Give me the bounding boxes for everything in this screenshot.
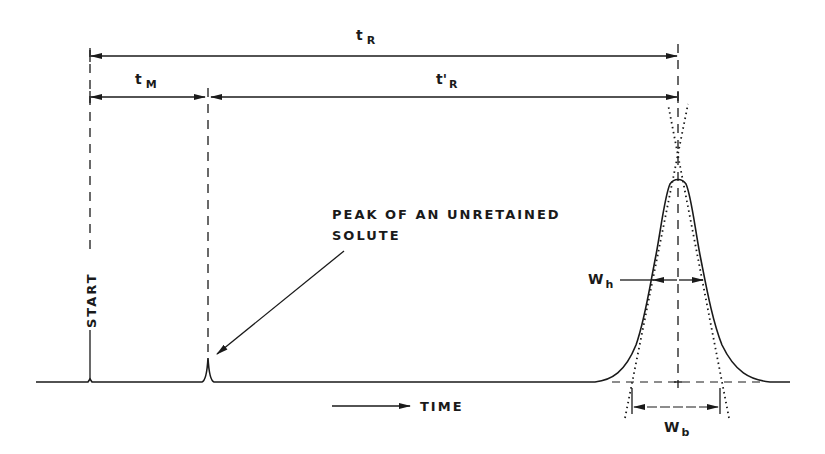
svg-text:tR: tR (356, 27, 376, 47)
w-h-dimension: Wh (588, 271, 703, 291)
unretained-label-line1: PEAK OF AN UNRETAINED (332, 207, 561, 222)
w-b-dimension: Wb (632, 388, 720, 439)
svg-text:t'R: t'R (436, 71, 458, 91)
unretained-annotation: PEAK OF AN UNRETAINED SOLUTE (217, 207, 561, 354)
svg-text:Wh: Wh (588, 271, 613, 291)
start-marker: START (84, 48, 99, 380)
time-axis-label: TIME (332, 399, 464, 414)
t-prime-r-dimension: t'R (211, 71, 678, 103)
unretained-label-line2: SOLUTE (332, 228, 401, 243)
svg-text:tM: tM (135, 71, 157, 91)
t-r-dimension: tR (90, 27, 677, 62)
svg-text:Wb: Wb (664, 419, 689, 439)
start-label: START (84, 272, 99, 328)
time-label: TIME (420, 399, 464, 414)
chromatogram-diagram: START tR tM t'R (0, 0, 825, 454)
unretained-arrow-icon (217, 251, 344, 354)
t-m-dimension: tM (90, 71, 205, 103)
tangent-lines (625, 104, 729, 418)
